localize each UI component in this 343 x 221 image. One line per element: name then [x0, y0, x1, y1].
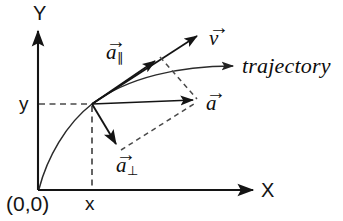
acceleration-perpendicular-label: → a ⊥	[116, 155, 138, 177]
acceleration-vector	[92, 100, 193, 104]
x-axis-label: X	[261, 180, 274, 200]
acceleration-parallel-label: → a ∥	[106, 42, 124, 64]
vector-accent-velocity: →	[209, 18, 218, 38]
vector-accent-a-parallel: →	[106, 32, 117, 52]
vector-subscript-parallel: ∥	[117, 50, 124, 65]
y-axis-label: Y	[33, 3, 46, 23]
acceleration-perpendicular-vector	[92, 104, 116, 144]
x-tick-label: x	[85, 194, 95, 213]
velocity-vector-label: → v	[209, 28, 218, 49]
diagram-canvas	[0, 0, 343, 221]
origin-label: (0,0)	[6, 193, 49, 214]
acceleration-parallel-vector	[92, 61, 155, 104]
vector-subscript-perpendicular: ⊥	[127, 163, 138, 178]
y-tick-label: y	[19, 94, 29, 113]
projection-lines	[39, 104, 92, 189]
trajectory-label: trajectory	[242, 55, 331, 77]
vector-accent-a-perp: →	[116, 145, 127, 165]
physics-vector-diagram: Y X (0,0) x y → v → a ∥ → a → a ⊥ trajec…	[0, 0, 343, 221]
parallelogram-construction	[121, 57, 197, 150]
vector-accent-acceleration: →	[206, 83, 217, 103]
acceleration-label: → a	[206, 93, 217, 114]
